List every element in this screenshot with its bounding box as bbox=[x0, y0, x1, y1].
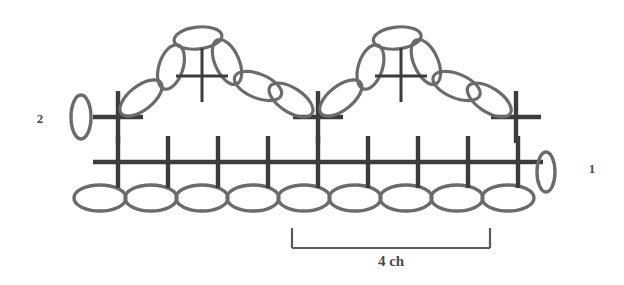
row-1-single-crochet bbox=[243, 136, 293, 188]
row-2-single-crochet bbox=[93, 91, 143, 143]
row-1-single-crochet bbox=[343, 136, 393, 188]
chain-stitch-arch bbox=[263, 76, 318, 123]
row-1-single-crochet bbox=[93, 136, 143, 188]
crochet-chart-diagram: 4 ch 21 bbox=[0, 0, 624, 285]
chain-stitch-arch bbox=[462, 76, 517, 123]
row-1-label: 1 bbox=[589, 161, 596, 176]
chain-stitch bbox=[278, 185, 330, 211]
chain-stitch-arch-apex bbox=[173, 25, 223, 52]
chain-stitch bbox=[431, 185, 483, 211]
measurement-bracket: 4 ch bbox=[292, 228, 490, 269]
chain-stitch bbox=[482, 185, 534, 211]
chain-arch-motifs bbox=[114, 25, 517, 124]
chain-stitch-arch-apex bbox=[372, 25, 422, 52]
row-1-single-crochet bbox=[293, 136, 343, 188]
row-2-turning-chain bbox=[71, 95, 91, 139]
row-1-single-crochet bbox=[143, 136, 193, 188]
chain-arch-motif-right bbox=[314, 25, 517, 124]
row-1-single-crochet bbox=[193, 136, 243, 188]
chain-arch-motif-left bbox=[114, 25, 319, 124]
row-1-turning-chain bbox=[537, 152, 555, 192]
chain-stitch bbox=[74, 185, 126, 211]
chain-stitch bbox=[125, 185, 177, 211]
measure-label: 4 ch bbox=[378, 253, 405, 269]
foundation-chain bbox=[74, 185, 534, 211]
diagram-canvas: 4 ch 21 bbox=[0, 0, 624, 285]
chain-stitch-arch bbox=[230, 66, 285, 107]
chain-stitch bbox=[380, 185, 432, 211]
row-2-label: 2 bbox=[37, 111, 44, 126]
row-1-single-crochet bbox=[443, 136, 493, 188]
chain-stitch-arch bbox=[405, 35, 446, 89]
chain-stitch bbox=[329, 185, 381, 211]
chain-stitch bbox=[227, 185, 279, 211]
row-1-stitches bbox=[93, 136, 555, 192]
chain-stitch bbox=[176, 185, 228, 211]
chain-stitch-arch bbox=[206, 35, 247, 89]
row-1-single-crochet bbox=[493, 136, 543, 188]
row-1-single-crochet bbox=[393, 136, 443, 188]
chain-stitch-arch bbox=[429, 66, 484, 107]
